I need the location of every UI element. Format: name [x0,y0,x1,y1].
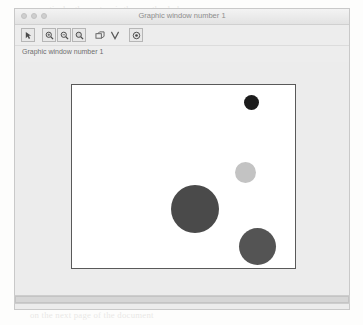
toolbar[interactable] [15,25,349,46]
rotate-3d-icon[interactable] [93,28,107,42]
zoom-area-icon[interactable] [72,28,86,42]
background-text-line: on the next page of the document [0,310,363,320]
canvas-area [15,62,349,309]
data-bubble [239,228,276,265]
plot-canvas[interactable] [71,84,296,269]
data-bubble [235,162,256,183]
data-bubble [244,95,259,110]
zoom-in-icon[interactable] [42,28,56,42]
help-info-icon[interactable] [129,28,143,42]
horizontal-scrollbar[interactable] [14,295,350,304]
window-titlebar[interactable]: Graphic window number 1 [15,9,349,25]
status-label: Graphic window number 1 [15,46,349,62]
scrollbar-thumb[interactable] [15,296,349,303]
data-bubble [171,185,219,233]
toolbar-group-select [21,28,35,42]
window-title: Graphic window number 1 [15,11,349,20]
datatip-icon[interactable] [108,28,122,42]
toolbar-group-view [93,28,122,42]
zoom-out-icon[interactable] [57,28,71,42]
graphic-window[interactable]: Graphic window number 1 [14,8,350,310]
toolbar-group-help [129,28,143,42]
pointer-select-icon[interactable] [21,28,35,42]
toolbar-group-zoom [42,28,86,42]
